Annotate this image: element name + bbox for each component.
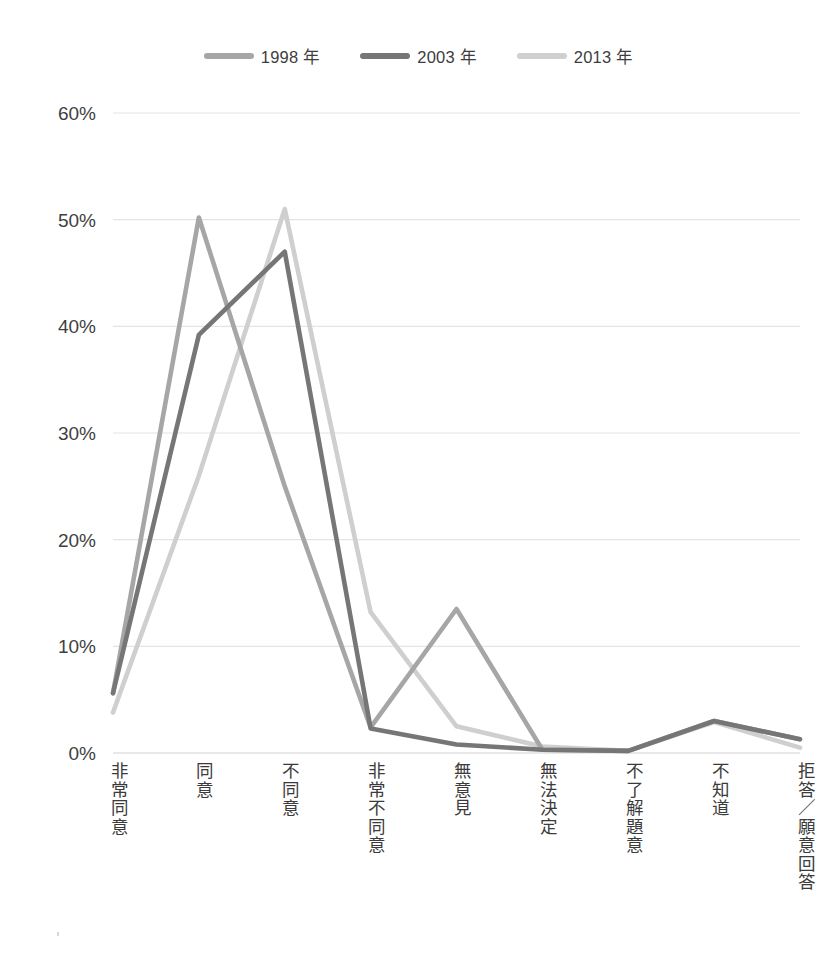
gridlines: [113, 113, 800, 753]
x-axis-category-label: 無法決定: [529, 762, 555, 836]
y-axis-tick-label: 10%: [58, 636, 96, 657]
scan-artifact: [57, 932, 59, 936]
y-axis-tick-label: 30%: [58, 423, 96, 444]
x-axis-category-label: 非常同意: [100, 762, 126, 836]
y-axis-tick-label: 60%: [58, 103, 96, 124]
series-line-1998年[interactable]: [113, 218, 800, 751]
x-axis-category-label: 無意見: [444, 762, 470, 818]
y-axis-tick-label: 40%: [58, 316, 96, 337]
x-axis-category-label: 不同意: [272, 762, 298, 818]
x-axis-category-label: 同意: [186, 762, 212, 799]
y-axis-tick-labels: 0%10%20%30%40%50%60%: [58, 103, 96, 764]
series-lines: [113, 209, 800, 751]
x-axis-category-label: 不知道: [701, 762, 727, 818]
chart-container: 1998 年 2003 年 2013 年 0%10%20%30%40%50%60…: [0, 0, 837, 980]
y-axis-tick-label: 0%: [69, 743, 97, 764]
y-axis-tick-label: 50%: [58, 210, 96, 231]
series-line-2013年[interactable]: [113, 209, 800, 751]
y-axis-tick-label: 20%: [58, 530, 96, 551]
x-axis-category-label: 非常不同意: [358, 762, 384, 855]
x-axis-category-labels: 非常同意同意不同意非常不同意無意見無法決定不了解題意不知道拒答／願意回答: [0, 762, 837, 962]
x-axis-category-label: 拒答／願意回答: [787, 762, 813, 892]
x-axis-category-label: 不了解題意: [615, 762, 641, 855]
